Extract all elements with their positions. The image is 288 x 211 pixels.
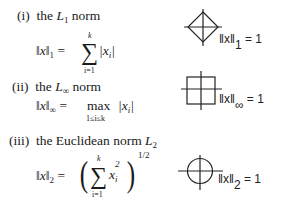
label-subscript: 2 <box>234 178 241 192</box>
label-norm: ‖x‖ <box>218 172 234 186</box>
label-rhs: = 1 <box>244 172 261 186</box>
circle-label: ‖x‖2 = 1 <box>218 172 261 186</box>
